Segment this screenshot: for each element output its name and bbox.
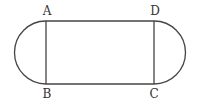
label-c: C [149,87,158,101]
stadium-diagram: A B C D [0,0,198,104]
right-semicircle [154,21,186,84]
label-d: D [150,4,160,18]
label-a: A [42,4,52,18]
left-semicircle [15,21,47,84]
label-b: B [43,87,52,101]
